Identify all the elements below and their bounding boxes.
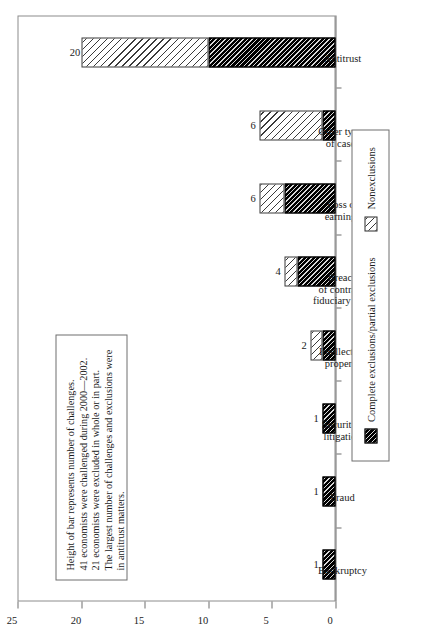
bar-value-label: 1 [313, 412, 318, 423]
value-axis-tick [17, 601, 18, 608]
legend-label-nonexclusions: Nonexclusions [365, 147, 376, 209]
legend-swatch-light-hatch-icon [364, 216, 377, 231]
note-line-3: The largest number of challenges and exc… [102, 344, 115, 570]
category-axis-tick [336, 454, 341, 455]
value-axis-tick [208, 601, 209, 608]
category-axis-tick [336, 87, 341, 88]
legend-swatch-dark-hatch-icon [364, 428, 377, 443]
bar-value-label: 1 [313, 486, 318, 497]
bar-segment-nonexclusions [81, 37, 208, 67]
note-line-0: Height of bar represents number of chall… [64, 344, 77, 570]
category-axis-tick [336, 527, 341, 528]
bar-value-label: 6 [250, 119, 255, 130]
bar-segment-nonexclusions [259, 110, 323, 140]
value-axis-tick-label: 10 [197, 614, 208, 625]
category-axis-tick [336, 161, 341, 162]
bar-value-label: 6 [250, 193, 255, 204]
rotated-figure-canvas: 0510152025 111246620 BankruptcyFraudSecu… [0, 0, 441, 637]
category-label: Bankruptcy [318, 564, 367, 576]
value-axis-tick [335, 601, 336, 608]
value-axis-tick-label: 20 [70, 614, 81, 625]
bar-value-label: 20 [69, 46, 80, 57]
category-axis-tick [336, 307, 341, 308]
legend-item-nonexclusions: Nonexclusions [364, 147, 377, 231]
value-axis-tick-label: 0 [327, 614, 332, 625]
category-label: Fraud [330, 491, 355, 503]
bar-segment-nonexclusions [284, 256, 297, 286]
bar [259, 183, 335, 213]
bar-value-label: 2 [300, 339, 305, 350]
note-line-4: in antitrust matters. [114, 344, 127, 570]
category-axis-tick [336, 380, 341, 381]
bar-segment-complete-exclusions [208, 37, 335, 67]
category-label: Antitrust [323, 52, 360, 64]
value-axis-tick [144, 601, 145, 608]
note-line-2: 21 economists were excluded in whole or … [89, 344, 102, 570]
value-axis-tick [81, 601, 82, 608]
note-line-1: 41 economists were challenged during 200… [77, 344, 90, 570]
bar-value-label: 4 [275, 266, 280, 277]
legend: Complete exclusions/partial exclusions N… [351, 129, 389, 461]
note-box: Height of bar represents number of chall… [55, 334, 127, 580]
legend-label-complete-exclusions: Complete exclusions/partial exclusions [365, 257, 376, 421]
category-axis-tick [336, 234, 341, 235]
value-axis-tick [271, 601, 272, 608]
bar-segment-nonexclusions [259, 183, 284, 213]
bar [81, 37, 335, 67]
value-axis-tick-label: 25 [6, 614, 17, 625]
value-axis-tick-label: 15 [133, 614, 144, 625]
value-axis-tick-label: 5 [263, 614, 268, 625]
legend-item-complete-exclusions: Complete exclusions/partial exclusions [364, 257, 377, 443]
